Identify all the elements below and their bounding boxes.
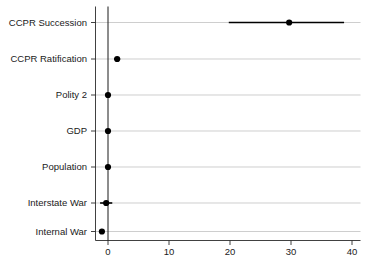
y-axis-label: CCPR Ratification — [10, 53, 87, 64]
y-axis-label: Polity 2 — [56, 89, 87, 100]
x-axis-tick-label: 0 — [105, 246, 110, 257]
x-axis-tick-label: 30 — [286, 246, 297, 257]
estimate-point-marker — [99, 228, 105, 234]
x-axis-tick-label: 40 — [347, 246, 358, 257]
estimate-point-marker — [286, 19, 292, 25]
y-axis-label: GDP — [66, 125, 87, 136]
estimate-point-marker — [103, 200, 109, 206]
y-axis-label: CCPR Succession — [9, 17, 87, 28]
x-axis-tick-label: 10 — [164, 246, 175, 257]
estimate-point-marker — [105, 164, 111, 170]
chart-canvas: CCPR SuccessionCCPR RatificationPolity 2… — [0, 0, 366, 272]
estimate-point-marker — [114, 56, 120, 62]
estimate-point-marker — [105, 92, 111, 98]
y-axis-label: Population — [42, 161, 87, 172]
coefficient-plot: CCPR SuccessionCCPR RatificationPolity 2… — [0, 0, 366, 272]
x-axis-tick-label: 20 — [225, 246, 236, 257]
estimate-point-marker — [105, 128, 111, 134]
y-axis-label: Internal War — [36, 226, 87, 237]
y-axis-label: Interstate War — [28, 197, 87, 208]
